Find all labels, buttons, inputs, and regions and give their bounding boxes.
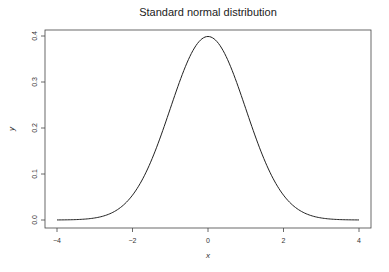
y-axis: 0.00.10.20.30.4	[31, 31, 45, 225]
y-tick-label: 0.1	[31, 169, 38, 179]
y-tick-label: 0.3	[31, 77, 38, 87]
y-tick-label: 0.2	[31, 123, 38, 133]
density-curve	[57, 36, 359, 219]
x-tick-label: −2	[129, 237, 137, 244]
x-tick-label: 4	[357, 237, 361, 244]
y-axis-label: y	[7, 126, 16, 132]
y-tick-label: 0.4	[31, 31, 38, 41]
y-tick-label: 0.0	[31, 215, 38, 225]
x-axis: −4−2024	[53, 228, 361, 244]
x-tick-label: 0	[206, 237, 210, 244]
x-tick-label: 2	[282, 237, 286, 244]
x-tick-label: −4	[53, 237, 61, 244]
chart-title: Standard normal distribution	[139, 6, 277, 18]
plot-frame	[45, 30, 371, 228]
chart: Standard normal distribution 0.00.10.20.…	[0, 0, 389, 272]
x-axis-label: x	[205, 251, 211, 260]
